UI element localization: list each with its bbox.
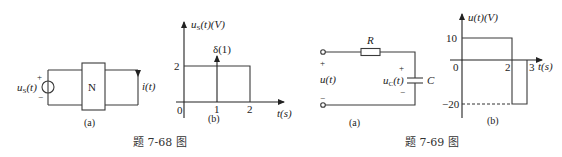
fig-7-69a-circuit — [321, 49, 423, 108]
cap-plus: + — [399, 63, 404, 73]
current-label: i(t) — [142, 80, 156, 93]
subfigure-a-label: (a) — [84, 117, 95, 129]
plus-sign: + — [37, 72, 42, 82]
terminal-bottom — [321, 103, 326, 108]
caption-7-69: 题 7-69 图 — [405, 136, 459, 149]
caption-7-68: 题 7-68 图 — [133, 136, 187, 149]
cap-minus: − — [400, 87, 405, 97]
current-arrow-icon — [135, 70, 141, 77]
input-plus: + — [320, 58, 325, 68]
input-label: u(t) — [320, 73, 336, 86]
resistor-label: R — [366, 34, 374, 46]
cap-voltage-label: uC(t) — [383, 74, 404, 88]
y-tick-neg20: −20 — [442, 98, 460, 110]
origin-label: 0 — [177, 104, 183, 116]
resistor-icon — [361, 49, 380, 56]
network-label: N — [88, 81, 96, 93]
waveform-769 — [462, 38, 527, 104]
minus-sign: − — [38, 92, 43, 102]
fig-7-68b-plot — [176, 22, 284, 118]
x-tick-2: 2 — [247, 103, 253, 115]
y-tick-10: 10 — [446, 32, 458, 44]
origin-769: 0 — [453, 61, 459, 73]
x-axis-label-769-visible: t(s) — [538, 60, 553, 73]
input-minus: − — [320, 93, 325, 103]
capacitor-label: C — [427, 74, 435, 86]
subfigure-a-label-769: (a) — [349, 117, 360, 129]
subfigure-b-label-769: (b) — [487, 115, 499, 127]
source-label: uS(t) — [17, 81, 37, 95]
x-axis-label: t(s) — [277, 107, 292, 120]
subfigure-b-label: (b) — [208, 113, 220, 125]
y-axis-label-769: u(t)(V) — [468, 11, 498, 24]
terminal-top — [321, 50, 326, 55]
x-tick-2-769: 2 — [505, 61, 511, 73]
impulse-label: δ(1) — [213, 43, 231, 56]
y-tick-2: 2 — [174, 60, 180, 72]
y-axis-label: uS(t)(V) — [191, 18, 225, 32]
x-tick-3-769: 3 — [529, 61, 535, 73]
